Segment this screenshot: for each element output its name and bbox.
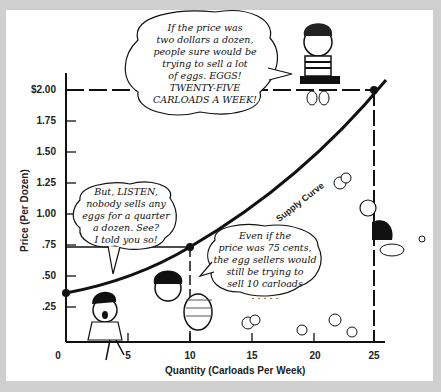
xtick-label: 0 <box>48 350 68 361</box>
xtick-label: 20 <box>305 350 325 361</box>
bubble-text-top: If the price was two dollars a dozen, pe… <box>140 22 270 106</box>
xtick-label: 15 <box>242 350 262 361</box>
point-10-075 <box>186 243 194 251</box>
xtick-label: 25 <box>364 350 384 361</box>
ytick-label: .50 <box>16 270 56 281</box>
ytick-label: 1.75 <box>16 115 56 126</box>
character-top-sitting <box>300 23 340 105</box>
ytick-label: $2.00 <box>16 84 56 95</box>
bubble-tail-left <box>108 246 120 274</box>
xtick-label: 5 <box>118 350 138 361</box>
y-axis-title: Price (Per Dozen) <box>19 169 30 252</box>
x-axis-title: Quantity (Carloads Per Week) <box>165 365 305 376</box>
point-25-200 <box>370 86 378 94</box>
ytick-label: 1.50 <box>16 146 56 157</box>
ytick-label: .25 <box>16 301 56 312</box>
x-ticks <box>128 333 314 342</box>
point-start <box>62 289 70 297</box>
bubble-text-right: Even if the price was 75 cents, the egg … <box>210 230 320 302</box>
character-middle <box>154 271 212 331</box>
bubble-tail-top <box>268 68 292 80</box>
character-falling-right <box>360 200 425 256</box>
bubble-text-left: But, LISTEN, nobody sells any eggs for a… <box>80 186 172 246</box>
xtick-label: 10 <box>180 350 200 361</box>
